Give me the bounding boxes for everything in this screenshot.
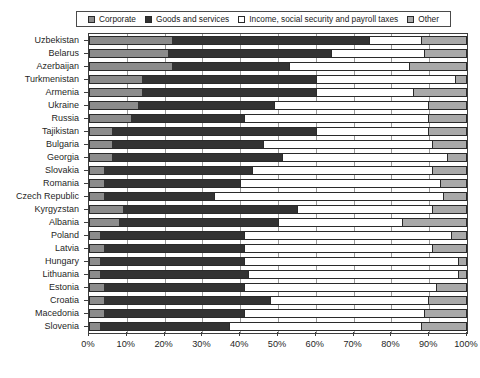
- y-axis-label-17: Hungary: [45, 256, 79, 266]
- bar-segment: [104, 192, 214, 201]
- bar-segment: [89, 231, 100, 240]
- y-axis-label-14: Albania: [49, 217, 79, 227]
- x-axis-tick-10: [126, 332, 127, 336]
- y-axis-label-4: Armenia: [45, 87, 79, 97]
- y-axis-category-labels: UzbekistanBelarusAzerbaijanTurkmenistanA…: [0, 33, 84, 332]
- bar-segment: [263, 140, 433, 149]
- bar-segment: [414, 88, 467, 97]
- bar-segment: [119, 218, 278, 227]
- stacked-bar-chart: CorporateGoods and servicesIncome, socia…: [0, 0, 480, 378]
- x-axis-tick-40: [239, 332, 240, 336]
- legend-entry-0[interactable]: Corporate: [88, 14, 136, 24]
- bar-row[interactable]: [89, 244, 467, 253]
- y-axis-label-20: Croatia: [50, 295, 79, 305]
- legend-label: Goods and services: [156, 14, 229, 24]
- bar-segment: [331, 49, 426, 58]
- x-axis-tick-label-70: 70%: [343, 338, 361, 350]
- legend-entry-1[interactable]: Goods and services: [145, 14, 229, 24]
- legend-entry-3[interactable]: Other: [407, 14, 439, 24]
- bar-row[interactable]: [89, 309, 467, 318]
- bar-segment: [89, 218, 119, 227]
- legend-label: Other: [418, 14, 439, 24]
- x-axis-tick-100: [466, 332, 467, 336]
- bar-segment: [89, 244, 104, 253]
- bar-segment: [429, 127, 467, 136]
- bar-row[interactable]: [89, 36, 467, 45]
- bar-segment: [244, 244, 433, 253]
- bar-segment: [289, 62, 410, 71]
- bar-segment: [89, 62, 172, 71]
- x-axis-tick-80: [390, 332, 391, 336]
- bar-segment: [89, 179, 104, 188]
- x-axis-tick-70: [353, 332, 354, 336]
- bar-segment: [142, 88, 316, 97]
- bar-segment: [112, 140, 263, 149]
- bar-segment: [229, 322, 422, 331]
- bar-segment: [282, 153, 448, 162]
- bar-segment: [244, 257, 459, 266]
- bar-segment: [89, 296, 104, 305]
- bar-segment: [240, 179, 440, 188]
- bar-segment: [444, 192, 467, 201]
- bar-row[interactable]: [89, 257, 467, 266]
- bar-row[interactable]: [89, 296, 467, 305]
- x-axis-tick-label-100: 100%: [454, 338, 478, 350]
- bar-row[interactable]: [89, 153, 467, 162]
- bar-segment: [89, 88, 142, 97]
- legend-swatch-income-social-security-payroll-icon: [238, 16, 245, 23]
- y-axis-label-8: Bulgaria: [46, 139, 79, 149]
- bar-row[interactable]: [89, 166, 467, 175]
- bar-segment: [433, 166, 467, 175]
- plot-area: [88, 33, 468, 334]
- bar-segment: [172, 62, 289, 71]
- bar-row[interactable]: [89, 140, 467, 149]
- bar-segment: [89, 270, 100, 279]
- bar-segment: [270, 296, 429, 305]
- legend-entry-2[interactable]: Income, social security and payroll taxe…: [238, 14, 398, 24]
- bar-row[interactable]: [89, 192, 467, 201]
- bar-segment: [89, 205, 123, 214]
- bar-segment: [429, 101, 467, 110]
- y-axis-label-0: Uzbekistan: [34, 35, 79, 45]
- bar-row[interactable]: [89, 283, 467, 292]
- bar-segment: [100, 231, 244, 240]
- bar-row[interactable]: [89, 322, 467, 331]
- bar-row[interactable]: [89, 101, 467, 110]
- bar-segment: [89, 114, 131, 123]
- x-axis-tick-label-60: 60%: [306, 338, 324, 350]
- bar-segment: [433, 244, 467, 253]
- bar-row[interactable]: [89, 75, 467, 84]
- bar-segment: [89, 257, 100, 266]
- x-axis-tick-30: [201, 332, 202, 336]
- bar-row[interactable]: [89, 127, 467, 136]
- bar-row[interactable]: [89, 114, 467, 123]
- bar-row[interactable]: [89, 205, 467, 214]
- bar-segment: [429, 114, 467, 123]
- bar-segment: [433, 140, 467, 149]
- y-axis-label-1: Belarus: [48, 48, 79, 58]
- bar-segment: [89, 322, 100, 331]
- bar-row[interactable]: [89, 88, 467, 97]
- bar-segment: [248, 270, 460, 279]
- bar-row[interactable]: [89, 49, 467, 58]
- bar-row[interactable]: [89, 179, 467, 188]
- bar-row[interactable]: [89, 218, 467, 227]
- legend-label: Corporate: [99, 14, 136, 24]
- bar-segment: [252, 166, 433, 175]
- legend-label: Income, social security and payroll taxe…: [249, 14, 398, 24]
- bar-segment: [172, 36, 369, 45]
- bar-segment: [244, 283, 437, 292]
- bar-row[interactable]: [89, 270, 467, 279]
- y-axis-label-9: Georgia: [47, 152, 79, 162]
- x-axis-tick-label-20: 20%: [154, 338, 172, 350]
- bar-row[interactable]: [89, 62, 467, 71]
- bar-segment: [441, 179, 467, 188]
- bar-segment: [433, 205, 467, 214]
- bar-segment: [104, 166, 251, 175]
- bar-segment: [278, 218, 403, 227]
- bar-row[interactable]: [89, 231, 467, 240]
- x-axis-tick-label-80: 80%: [381, 338, 399, 350]
- x-axis-tick-90: [428, 332, 429, 336]
- bar-segment: [104, 179, 240, 188]
- y-axis-label-16: Latvia: [55, 243, 79, 253]
